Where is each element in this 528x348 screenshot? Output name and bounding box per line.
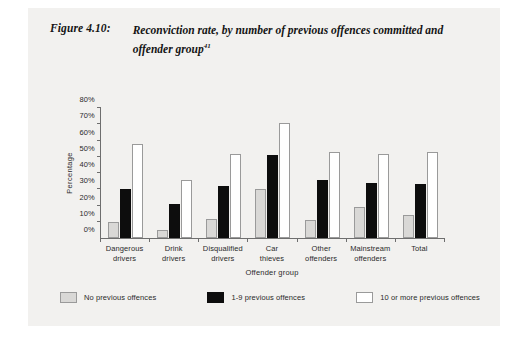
bar bbox=[218, 186, 229, 238]
bar bbox=[206, 219, 217, 239]
bar-group bbox=[396, 108, 445, 238]
x-axis-tick-label: Total bbox=[395, 244, 444, 264]
bar bbox=[108, 222, 119, 238]
x-axis-tick-mark bbox=[297, 238, 298, 242]
x-axis-tick-label: Otheroffenders bbox=[297, 244, 346, 264]
bar-group bbox=[248, 108, 297, 238]
bar bbox=[169, 204, 180, 238]
legend-label: 10 or more previous offences bbox=[380, 293, 480, 302]
y-axis-tick-label: 60% bbox=[79, 127, 101, 136]
y-axis-tick-label: 10% bbox=[79, 208, 101, 217]
x-axis-tick-mark bbox=[395, 238, 396, 242]
legend-label: 1-9 previous offences bbox=[231, 293, 305, 302]
figure-panel: Figure 4.10: Reconviction rate, by numbe… bbox=[28, 8, 500, 326]
bar bbox=[378, 154, 389, 239]
bar-group bbox=[101, 108, 150, 238]
y-axis-tick-label: 70% bbox=[79, 111, 101, 120]
bar bbox=[427, 152, 438, 238]
bar-group bbox=[199, 108, 248, 238]
y-axis-tick-label: 50% bbox=[79, 143, 101, 152]
legend-item: 1-9 previous offences bbox=[207, 292, 305, 303]
bar bbox=[255, 189, 266, 238]
y-axis-tick-label: 80% bbox=[79, 95, 101, 104]
x-axis-tick-mark bbox=[444, 238, 445, 242]
x-axis-title: Offender group bbox=[100, 268, 444, 277]
y-axis-tick-label: 30% bbox=[79, 176, 101, 185]
x-axis-tick-label: Carthieves bbox=[247, 244, 296, 264]
legend-swatch bbox=[207, 292, 224, 303]
bar bbox=[317, 180, 328, 239]
plot-area: 0%10%20%30%40%50%60%70%80% bbox=[100, 108, 445, 239]
bar bbox=[132, 144, 143, 238]
bar-group bbox=[150, 108, 199, 238]
x-axis-tick-mark bbox=[247, 238, 248, 242]
y-axis-tick-label: 0% bbox=[84, 225, 101, 234]
bar bbox=[279, 123, 290, 238]
page-title: Reconviction rate, by number of previous… bbox=[133, 22, 463, 57]
x-axis-tick-label: Dangerousdrivers bbox=[100, 244, 149, 264]
bar-groups bbox=[101, 108, 445, 238]
legend-swatch bbox=[356, 292, 373, 303]
footnote-marker: 41 bbox=[204, 42, 211, 50]
bar bbox=[267, 155, 278, 238]
x-axis-labels: DangerousdriversDrinkdriversDisqualified… bbox=[100, 244, 444, 264]
legend-swatch bbox=[60, 292, 77, 303]
bar bbox=[415, 184, 426, 238]
x-axis-tick-label: Drinkdrivers bbox=[149, 244, 198, 264]
bar bbox=[120, 189, 131, 238]
x-axis-tick-label: Disqualifieddrivers bbox=[198, 244, 247, 264]
x-axis-tick-mark bbox=[100, 238, 101, 242]
x-axis-ticks bbox=[100, 238, 444, 242]
bar bbox=[157, 230, 168, 238]
y-axis-tick-label: 20% bbox=[79, 192, 101, 201]
bar-group bbox=[298, 108, 347, 238]
bar-group bbox=[347, 108, 396, 238]
legend-label: No previous offences bbox=[84, 293, 156, 302]
legend-item: 10 or more previous offences bbox=[356, 292, 480, 303]
bar bbox=[329, 152, 340, 238]
x-axis-tick-mark bbox=[346, 238, 347, 242]
chart-legend: No previous offences1-9 previous offence… bbox=[60, 292, 480, 303]
y-axis-title: Percentage bbox=[62, 108, 76, 238]
figure-title-text: Reconviction rate, by number of previous… bbox=[133, 24, 444, 55]
y-axis-tick-label: 40% bbox=[79, 160, 101, 169]
bar bbox=[403, 215, 414, 238]
x-axis-tick-mark bbox=[198, 238, 199, 242]
bar bbox=[181, 180, 192, 239]
x-axis-tick-label: Mainstreamoffenders bbox=[346, 244, 395, 264]
figure-heading: Figure 4.10: Reconviction rate, by numbe… bbox=[50, 22, 484, 57]
bar-chart: Percentage 0%10%20%30%40%50%60%70%80% Da… bbox=[40, 70, 488, 316]
figure-number: Figure 4.10: bbox=[50, 22, 111, 34]
bar bbox=[305, 220, 316, 238]
bar bbox=[354, 207, 365, 238]
legend-item: No previous offences bbox=[60, 292, 156, 303]
x-axis-tick-mark bbox=[149, 238, 150, 242]
bar bbox=[366, 183, 377, 238]
bar bbox=[230, 154, 241, 239]
